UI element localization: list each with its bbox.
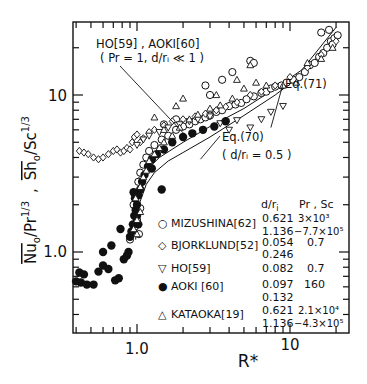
annotation-leader-0: [120, 66, 185, 135]
data-point: [229, 95, 236, 101]
legend-name-ho: HO[59]: [171, 262, 211, 275]
legend-name-kataoka: KATAOKA[19]: [171, 308, 244, 321]
data-point: [173, 103, 180, 109]
data-point: [151, 141, 158, 148]
legend-symbol-aoki: ●: [158, 280, 168, 293]
data-point: [222, 117, 230, 125]
legend-prsc-bjorklund: 0.7: [307, 236, 325, 249]
data-point: [151, 114, 158, 120]
legend-prsc-ho: 0.7: [307, 262, 325, 275]
data-point: [267, 109, 274, 115]
annotation-eq70-condition: ( d/rᵢ = 0.5 ): [222, 148, 291, 162]
data-point: [207, 105, 214, 111]
annotation-ho-aoki: HO[59] , AOKI[60]: [96, 37, 200, 51]
annotation-leaders: [120, 66, 283, 159]
data-point: [89, 280, 97, 288]
legend-prsc-kataoka-1: 2.1×10⁴: [298, 305, 339, 316]
legend-header-d-ri: d/ri: [261, 198, 278, 213]
data-point: [217, 102, 224, 108]
x-tick-label-10: 10: [280, 336, 299, 354]
legend-symbol-ho: ▽: [158, 262, 167, 275]
data-point: [334, 32, 341, 39]
annotation-eq71: Eq.(71): [285, 77, 327, 91]
legend-symbol-mizushina: ○: [158, 217, 168, 230]
data-point: [258, 117, 265, 123]
legend-prsc-aoki: 160: [304, 278, 325, 291]
svg-text:Nuo/Pr1/3,Sho/Sc1/3: Nuo/Pr1/3,Sho/Sc1/3: [20, 116, 42, 264]
legend-symbol-kataoka: △: [158, 308, 167, 321]
data-point: [115, 274, 123, 282]
data-point: [116, 225, 124, 233]
data-point: [168, 138, 176, 146]
legend-dri-ho: 0.082: [262, 262, 294, 275]
data-point: [104, 265, 112, 273]
chart: 1.0 10 1.0 10 R* Nuo/Pr1/3,Sho/Sc1/3 HO[…: [0, 0, 367, 384]
data-point: [280, 103, 287, 109]
legend-prsc-mizushina-1: 3×10³: [298, 213, 329, 224]
y-tick-label-1: 1.0: [43, 243, 67, 261]
data-point: [80, 270, 88, 278]
data-point: [199, 126, 207, 134]
data-point: [179, 133, 187, 141]
y-tick-label-10: 10: [48, 87, 67, 105]
annotation-eq70: Eq.(70): [222, 130, 264, 144]
legend-name-bjorklund: BJORKLUND[52]: [171, 239, 258, 252]
data-point: [157, 185, 165, 193]
data-point: [253, 79, 260, 85]
data-point: [241, 85, 248, 91]
data-point: [210, 122, 218, 130]
data-point: [229, 68, 236, 75]
data-point: [219, 76, 226, 83]
y-axis-label: Nuo/Pr1/3,Sho/Sc1/3: [20, 116, 42, 264]
legend: d/ri Pr , Sc ○ MIZUSHINA[62] 0.621 1.136…: [158, 198, 343, 330]
data-point: [107, 241, 115, 249]
x-tick-label-1: 1.0: [125, 340, 149, 358]
legend-dri-kataoka-1: 0.621: [262, 304, 294, 317]
data-point: [99, 248, 107, 256]
legend-name-mizushina: MIZUSHINA[62]: [171, 217, 256, 230]
legend-header-pr-sc: Pr , Sc: [299, 198, 333, 211]
data-point: [234, 118, 241, 124]
data-point: [318, 29, 325, 36]
data-point: [202, 82, 209, 89]
data-point: [188, 129, 196, 137]
legend-dri-aoki-2: 0.132: [262, 291, 294, 304]
legend-name-aoki: AOKI [60]: [171, 280, 224, 293]
annotation-ho-aoki-conditions: ( Pr = 1, d/rᵢ ≪ 1 ): [100, 51, 204, 65]
data-point: [146, 147, 153, 154]
data-point: [180, 95, 187, 101]
legend-prsc-kataoka-2: −4.3×10⁵: [294, 318, 343, 329]
y-label-nu: Nu: [22, 243, 40, 264]
data-point: [325, 26, 332, 33]
legend-dri-bjorklund-2: 0.246: [262, 248, 294, 261]
data-point: [124, 248, 132, 256]
legend-symbol-bjorklund: ◇: [158, 239, 167, 252]
legend-dri-mizushina-1: 0.621: [262, 212, 294, 225]
annotation-leader-2: [200, 136, 220, 159]
data-point: [234, 76, 241, 82]
legend-dri-aoki-1: 0.097: [262, 278, 294, 291]
x-axis-label: R*: [238, 351, 258, 371]
legend-dri-kataoka-2: 1.136: [262, 317, 294, 330]
